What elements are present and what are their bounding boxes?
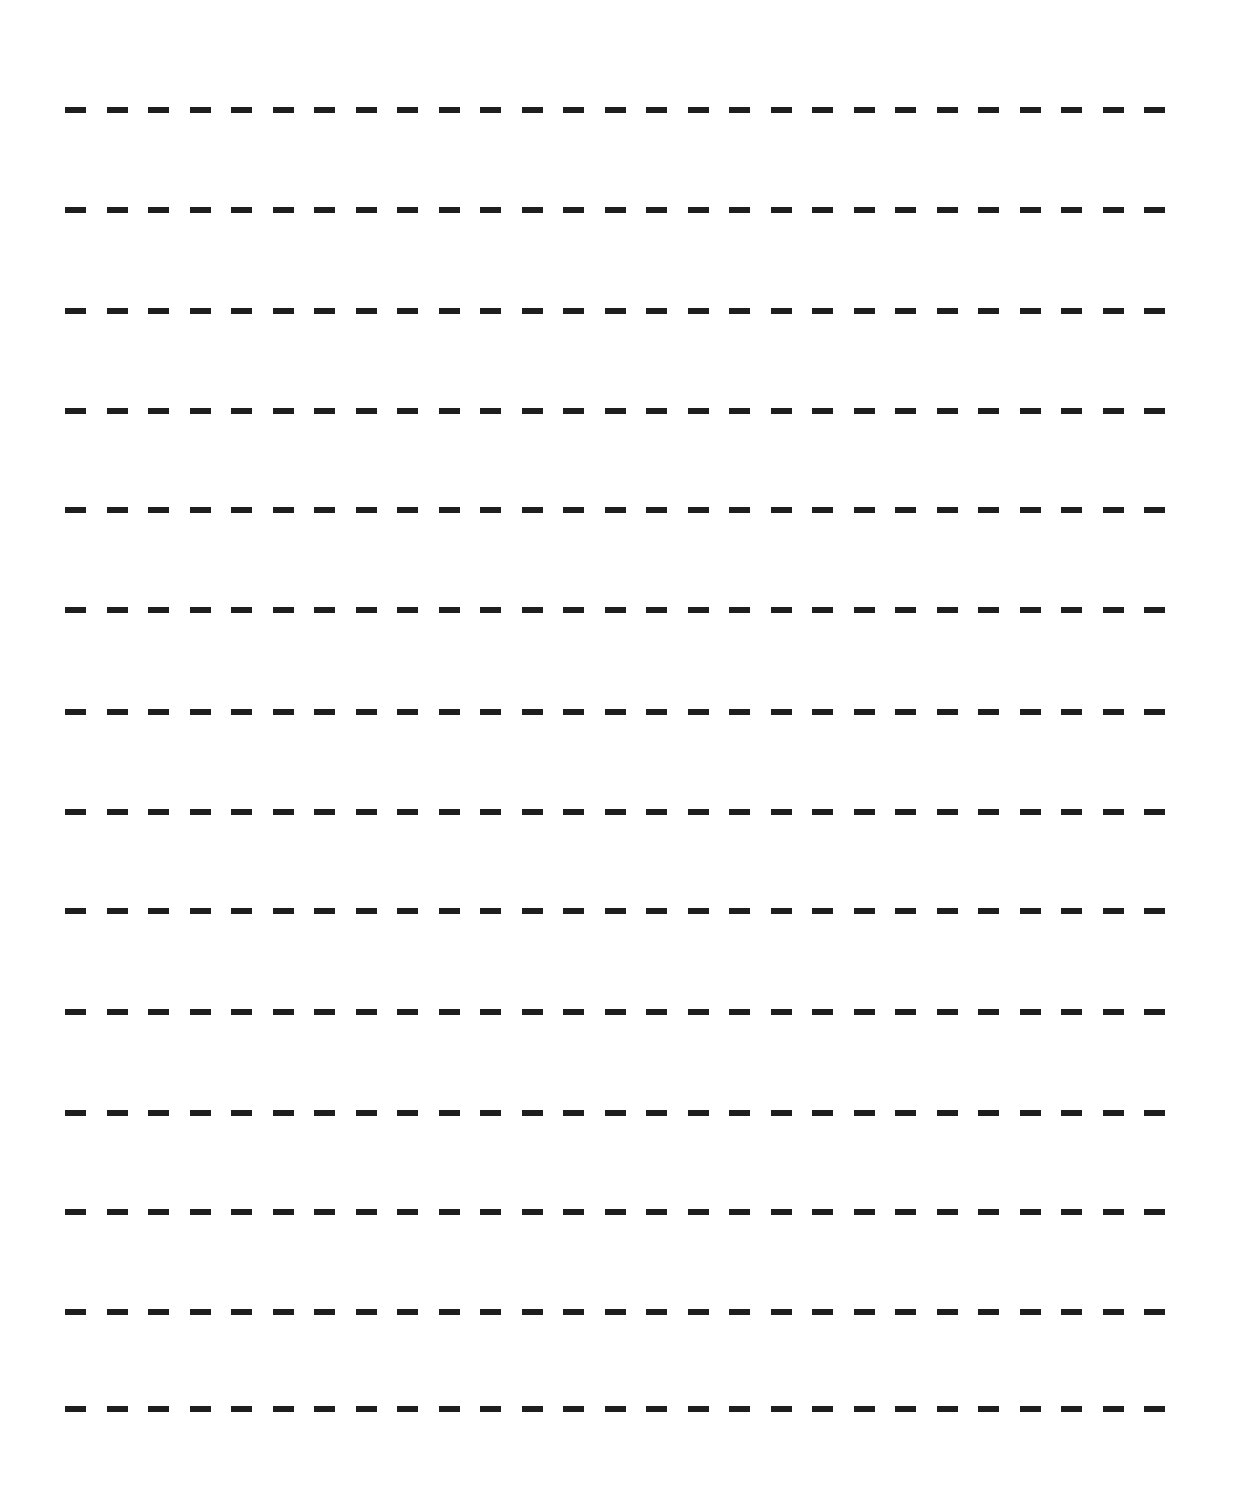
dashed-rule-line — [65, 1309, 1168, 1315]
dashed-rule-line — [65, 507, 1168, 513]
dashed-rule-line — [65, 207, 1168, 213]
worksheet-page — [0, 0, 1233, 1506]
dashed-rule-line — [65, 908, 1168, 914]
dashed-rule-line — [65, 607, 1168, 613]
dashed-rule-line — [65, 1209, 1168, 1215]
dashed-rule-line — [65, 709, 1168, 715]
dashed-rule-line — [65, 308, 1168, 314]
dashed-rule-line — [65, 1009, 1168, 1015]
dashed-rule-line — [65, 408, 1168, 414]
dashed-rule-line — [65, 107, 1168, 113]
dashed-rule-line — [65, 1110, 1168, 1116]
dashed-rule-line — [65, 1406, 1168, 1412]
dashed-rule-line — [65, 809, 1168, 815]
